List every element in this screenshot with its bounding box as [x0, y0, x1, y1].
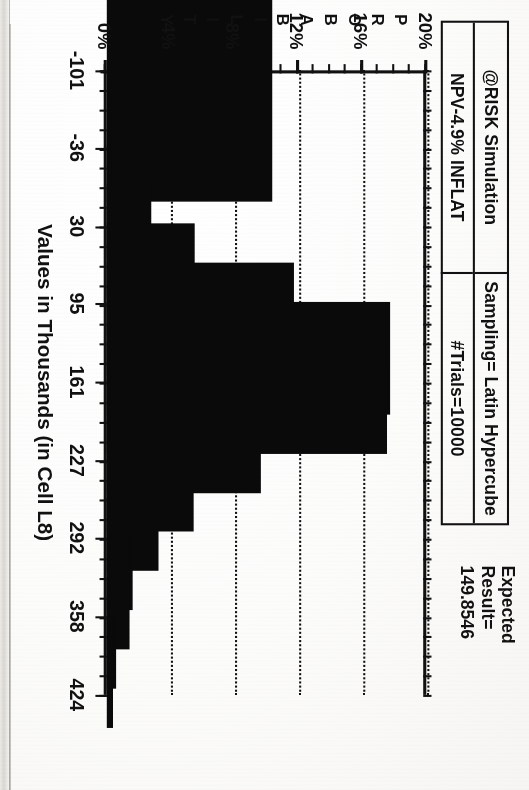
- x-tick-label: 30: [64, 215, 87, 237]
- x-axis-major-tick: [95, 460, 106, 462]
- x-axis-minor-tick: [99, 558, 106, 560]
- y-axis-title: PROBABILITY: [153, 6, 411, 33]
- x-axis-minor-tick: [99, 519, 106, 521]
- x-axis-minor-tick: [99, 578, 106, 580]
- risk-histogram-figure: @RISK Simulation Sampling= Latin Hypercu…: [6, 2, 523, 788]
- x-axis-minor-tick: [99, 168, 106, 170]
- y-axis-title-letter: I: [247, 17, 270, 22]
- x-tick-label: -101: [64, 51, 87, 90]
- x-axis-minor-tick: [99, 480, 106, 482]
- simulation-title-box: @RISK Simulation Sampling= Latin Hypercu…: [440, 21, 508, 526]
- x-axis-major-tick: [95, 303, 106, 305]
- x-tick-label: -36: [64, 133, 87, 161]
- x-axis-minor-tick: [99, 109, 106, 111]
- x-axis-minor-tick: [99, 129, 106, 131]
- title-trials-count: #Trials=10000: [440, 274, 472, 523]
- x-axis-minor-tick: [99, 246, 106, 248]
- title-box-row-top: @RISK Simulation Sampling= Latin Hypercu…: [472, 23, 506, 523]
- x-axis-minor-tick: [99, 90, 106, 92]
- y-axis-title-letter: I: [200, 17, 223, 22]
- top-rail-tick: [423, 695, 431, 697]
- histogram-bar: [106, 616, 112, 728]
- expected-label-line1: Expected: [497, 566, 517, 773]
- y-axis-title-letter: T: [176, 15, 199, 25]
- x-axis-minor-tick: [99, 500, 106, 502]
- x-axis-minor-tick: [99, 675, 106, 677]
- x-tick-label: 95: [64, 293, 87, 315]
- expected-result-block: Expected Result= 149.8546: [457, 566, 517, 773]
- x-axis-minor-tick: [99, 285, 106, 287]
- x-axis-minor-tick: [99, 265, 106, 267]
- x-axis-minor-tick: [99, 597, 106, 599]
- x-tick-label: 161: [64, 366, 87, 399]
- title-app-name: @RISK Simulation: [474, 23, 506, 274]
- x-axis-minor-tick: [99, 422, 106, 424]
- x-axis-major-tick: [95, 538, 106, 540]
- expected-label-line2: Result=: [477, 566, 497, 773]
- x-axis-minor-tick: [99, 344, 106, 346]
- y-axis-title-letter: P: [388, 14, 411, 25]
- plot-area: [103, 70, 424, 695]
- title-output-name: NPV-4.9% INFLAT: [440, 23, 472, 274]
- x-axis-major-tick: [95, 226, 106, 228]
- y-axis-title-letter: L: [223, 15, 246, 25]
- x-axis-major-tick: [95, 616, 106, 618]
- x-tick-label: 424: [64, 678, 87, 711]
- x-axis-minor-tick: [99, 187, 106, 189]
- x-axis-major-tick: [95, 695, 106, 697]
- x-axis-minor-tick: [99, 441, 106, 443]
- expected-result-value: 149.8546: [457, 566, 477, 773]
- x-axis-minor-tick: [99, 656, 106, 658]
- scanned-page: @RISK Simulation Sampling= Latin Hypercu…: [0, 0, 529, 790]
- x-axis-minor-tick: [99, 636, 106, 638]
- y-axis-title-letter: B: [317, 14, 340, 26]
- y-axis-title-letter: B: [270, 14, 293, 26]
- y-axis-title-letter: Y: [153, 14, 176, 25]
- x-axis-minor-tick: [99, 324, 106, 326]
- x-axis-major-tick: [95, 382, 106, 384]
- y-tick-label: 0%: [92, 2, 114, 50]
- title-box-row-bottom: NPV-4.9% INFLAT #Trials=10000: [440, 23, 472, 523]
- y-tick-label: 20%: [413, 2, 435, 50]
- x-tick-label: 358: [64, 600, 87, 633]
- x-axis-major-tick: [95, 148, 106, 150]
- title-sampling-method: Sampling= Latin Hypercube: [474, 274, 506, 523]
- y-axis-title-letter: A: [294, 14, 317, 26]
- x-axis-major-tick: [95, 70, 106, 72]
- x-axis-title: Values in Thousands (in Cell L8): [32, 70, 56, 695]
- x-axis-minor-tick: [99, 402, 106, 404]
- x-axis-minor-tick: [99, 363, 106, 365]
- x-tick-label: 227: [64, 444, 87, 477]
- x-tick-label: 292: [64, 521, 87, 554]
- gridline-20%: [427, 70, 429, 695]
- x-axis-minor-tick: [99, 207, 106, 209]
- y-axis-title-letter: R: [364, 14, 387, 26]
- rotated-chart-container: @RISK Simulation Sampling= Latin Hypercu…: [6, 2, 523, 788]
- y-axis-title-letter: O: [341, 13, 364, 26]
